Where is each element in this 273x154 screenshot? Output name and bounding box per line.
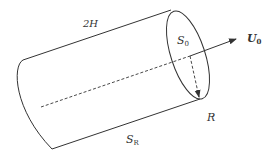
cylinder-figure	[0, 0, 273, 154]
end-face-label: S0	[177, 35, 189, 48]
lateral-surface-label-sub: R	[134, 139, 139, 147]
cylinder-left-end-arc	[17, 60, 52, 149]
radius-arrow	[190, 56, 199, 97]
end-face-label-base: S	[177, 34, 185, 47]
velocity-label-base: U	[247, 32, 257, 45]
cylinder-diagram: 2H S0 U0 R SR	[0, 0, 273, 154]
end-face-label-sub: 0	[185, 40, 189, 48]
cylinder-axis	[41, 56, 190, 107]
lateral-surface-label: SR	[126, 134, 139, 147]
velocity-label-sub: 0	[257, 37, 262, 46]
end-face-ellipse	[158, 6, 219, 104]
velocity-label: U0	[247, 33, 261, 45]
lateral-surface-label-base: S	[126, 133, 134, 146]
velocity-arrow	[190, 39, 236, 56]
radius-label: R	[207, 112, 215, 123]
length-label: 2H	[83, 19, 98, 29]
